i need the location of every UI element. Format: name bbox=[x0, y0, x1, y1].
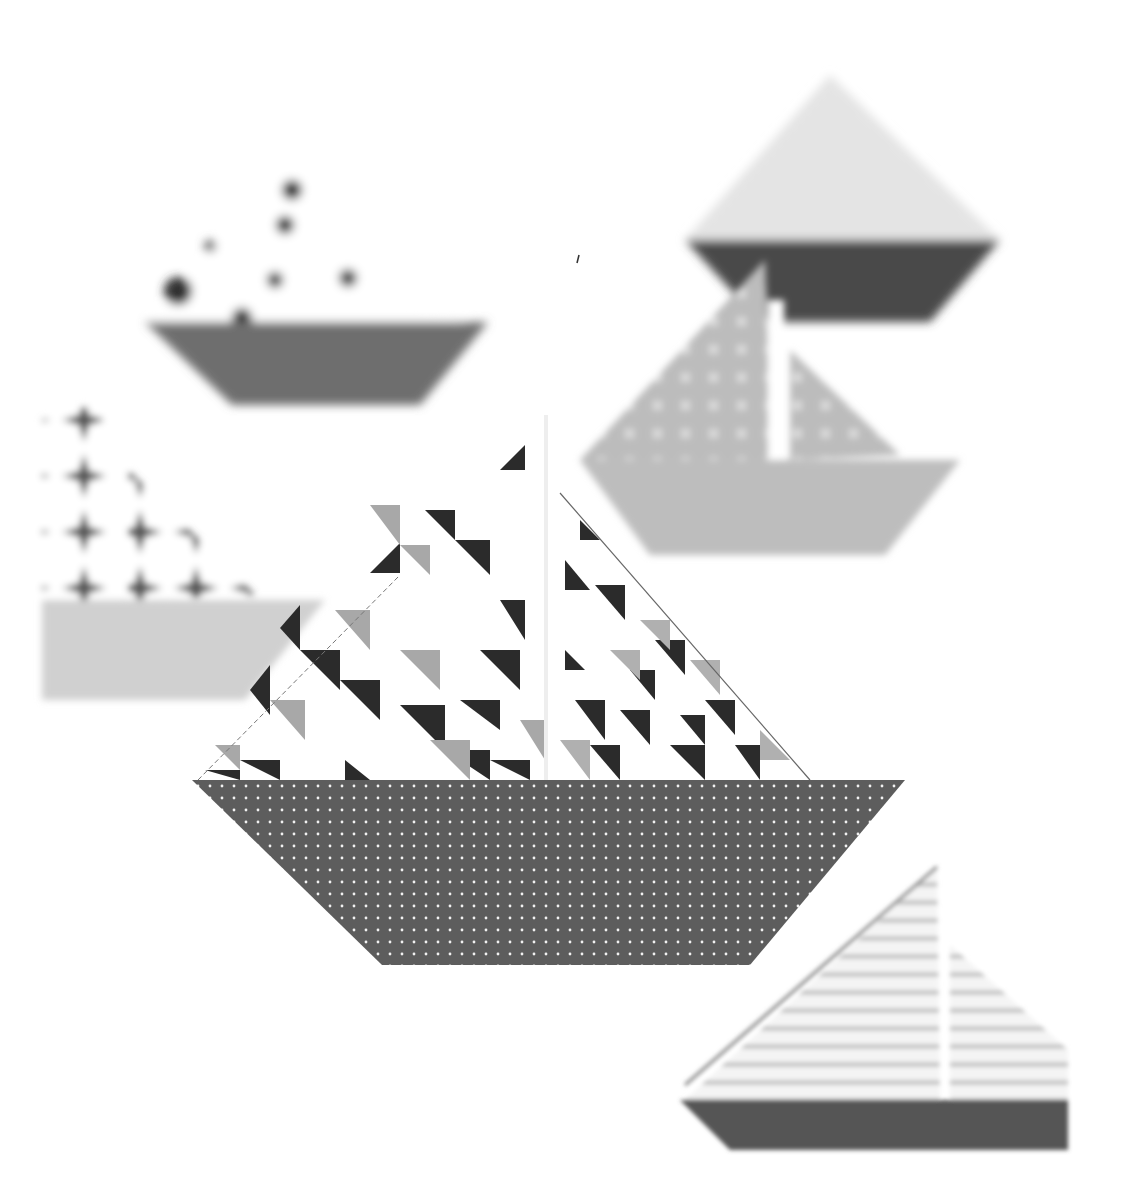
boat-top-right bbox=[685, 75, 1000, 322]
speck bbox=[577, 255, 579, 263]
photo-scene bbox=[0, 0, 1125, 1204]
boat-top-left bbox=[145, 165, 488, 405]
boat-left bbox=[42, 400, 325, 700]
